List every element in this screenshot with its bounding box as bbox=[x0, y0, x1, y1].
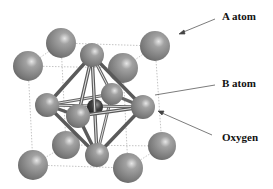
a-atom bbox=[148, 132, 176, 160]
a-atom bbox=[13, 51, 43, 81]
a-atom bbox=[113, 153, 143, 183]
oxygen-atom bbox=[85, 143, 109, 167]
a-atom bbox=[18, 150, 48, 180]
oxygen-atom bbox=[35, 93, 59, 117]
crystal-structure-diagram bbox=[0, 0, 273, 189]
label-b-atom: B atom bbox=[222, 77, 256, 89]
a-atom bbox=[108, 53, 138, 83]
oxygen-atom bbox=[66, 104, 90, 128]
a-atom bbox=[140, 31, 170, 61]
label-oxygen: Oxygen bbox=[222, 131, 258, 143]
oxygen-atom bbox=[131, 95, 155, 119]
label-a-atom: A atom bbox=[222, 10, 256, 22]
oxygen-atom bbox=[101, 83, 123, 105]
oxygen-atom bbox=[80, 43, 104, 67]
a-atom bbox=[46, 28, 76, 58]
